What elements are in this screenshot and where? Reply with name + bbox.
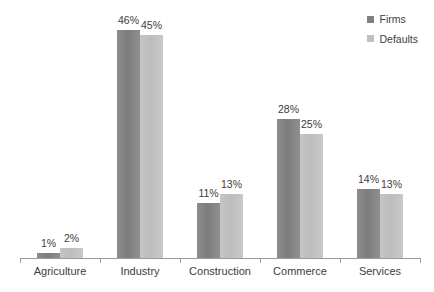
bar-group-bars: 28%25% [277, 10, 323, 258]
bar-value-label: 13% [381, 179, 402, 190]
bar-industry-firms[interactable]: 46% [117, 30, 140, 258]
bar-value-label: 13% [221, 179, 242, 190]
bar-services-defaults[interactable]: 13% [380, 194, 403, 258]
bar-value-label: 1% [41, 238, 56, 249]
bar-value-label: 11% [198, 188, 218, 199]
x-axis-tick [20, 258, 21, 263]
bar-group-bars: 11%13% [197, 10, 243, 258]
bar-commerce-defaults[interactable]: 25% [300, 134, 323, 258]
bar-group: 14%13% [340, 10, 420, 258]
bar-value-label: 46% [118, 15, 139, 26]
x-axis-tick [260, 258, 261, 263]
bar-value-label: 2% [64, 233, 79, 244]
bar-construction-defaults[interactable]: 13% [220, 194, 243, 258]
x-axis-tick [340, 258, 341, 263]
bar-group: 11%13% [180, 10, 260, 258]
bar-industry-defaults[interactable]: 45% [140, 35, 163, 258]
bar-group: 28%25% [260, 10, 340, 258]
x-axis-tick [100, 258, 101, 263]
x-axis-category-label: Services [340, 266, 420, 277]
bar-value-label: 45% [141, 20, 162, 31]
bar-value-label: 28% [278, 104, 299, 115]
x-axis-tick [180, 258, 181, 263]
bar-group-bars: 46%45% [117, 10, 163, 258]
bar-construction-firms[interactable]: 11% [197, 203, 220, 258]
bar-value-label: 14% [358, 174, 379, 185]
bar-agriculture-defaults[interactable]: 2% [60, 248, 83, 258]
bar-value-label: 25% [301, 119, 322, 130]
bar-chart: Firms Defaults 1%2%46%45%11%13%28%25%14%… [0, 0, 434, 292]
x-axis-tick [420, 258, 421, 263]
x-axis-category-label: Construction [180, 266, 260, 277]
x-axis-category-label: Agriculture [20, 266, 100, 277]
bar-services-firms[interactable]: 14% [357, 189, 380, 258]
x-axis-baseline [20, 258, 420, 259]
bar-group-bars: 14%13% [357, 10, 403, 258]
bar-group: 1%2% [20, 10, 100, 258]
bar-group-bars: 1%2% [37, 10, 83, 258]
plot-area: 1%2%46%45%11%13%28%25%14%13% [20, 10, 420, 258]
x-axis-category-label: Commerce [260, 266, 340, 277]
bar-group: 46%45% [100, 10, 180, 258]
bar-commerce-firms[interactable]: 28% [277, 119, 300, 258]
x-axis-category-label: Industry [100, 266, 180, 277]
